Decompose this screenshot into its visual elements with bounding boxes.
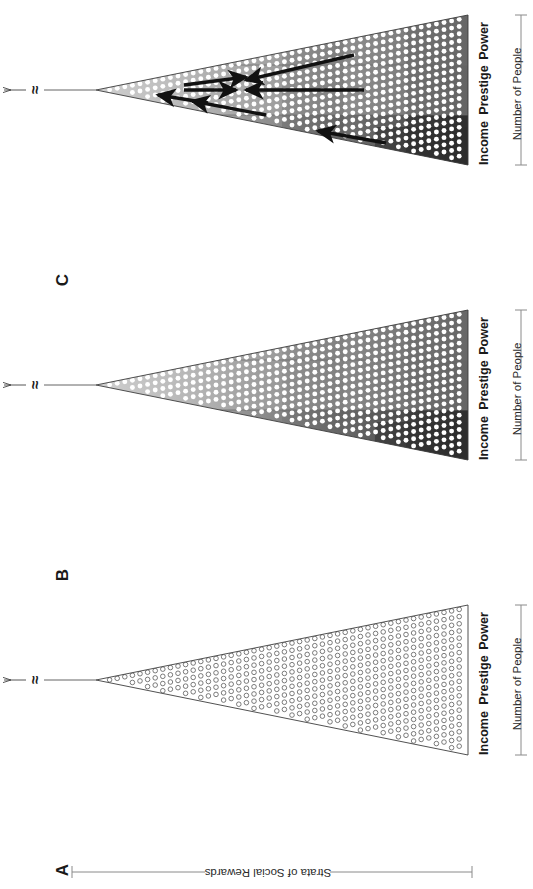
person-dot — [259, 381, 264, 386]
person-dot — [350, 60, 355, 65]
person-dot — [236, 97, 241, 102]
person-dot — [259, 57, 264, 62]
person-dot — [312, 363, 317, 368]
person-dot — [404, 330, 409, 335]
person-dot — [411, 436, 416, 441]
person-dot — [176, 88, 181, 93]
person-dot — [282, 412, 287, 417]
person-dot — [259, 78, 264, 83]
person-dot — [191, 366, 196, 371]
person-dot — [419, 435, 424, 440]
person-dot — [388, 31, 393, 36]
person-dot — [320, 340, 325, 345]
person-dot — [373, 430, 378, 435]
person-dot — [267, 77, 272, 82]
person-dot — [153, 85, 158, 90]
person-dot — [457, 326, 462, 331]
person-dot — [350, 369, 355, 374]
person-dot — [404, 100, 409, 105]
person-dot — [442, 92, 447, 97]
person-dot — [388, 103, 393, 108]
person-dot — [221, 359, 226, 364]
person-dot — [434, 101, 439, 106]
person-dot — [381, 392, 386, 397]
person-dot — [267, 113, 272, 118]
person-dot — [160, 386, 165, 391]
person-dot — [335, 106, 340, 111]
person-dot — [449, 76, 454, 81]
person-dot — [419, 341, 424, 346]
person-dot — [229, 70, 234, 75]
person-dot — [381, 421, 386, 426]
person-dot — [388, 60, 393, 65]
person-dot — [366, 359, 371, 364]
person-dot — [312, 384, 317, 389]
person-dot — [388, 347, 393, 352]
person-dot — [457, 60, 462, 65]
person-dot — [343, 364, 348, 369]
person-dot — [343, 421, 348, 426]
person-dot — [434, 108, 439, 113]
person-dot — [388, 96, 393, 101]
person-dot — [426, 145, 431, 150]
person-dot — [328, 417, 333, 422]
person-dot — [381, 61, 386, 66]
person-dot — [252, 404, 257, 409]
person-dot — [457, 17, 462, 22]
person-dot — [373, 350, 378, 355]
person-dot — [252, 66, 257, 71]
person-dot — [434, 360, 439, 365]
person-dot — [236, 83, 241, 88]
person-dot — [419, 53, 424, 58]
person-dot — [366, 115, 371, 120]
person-dot — [411, 149, 416, 154]
person-dot — [381, 54, 386, 59]
person-dot — [366, 79, 371, 84]
person-dot — [274, 111, 279, 116]
person-dot — [457, 96, 462, 101]
person-dot — [358, 73, 363, 78]
person-dot — [343, 105, 348, 110]
person-dot — [373, 358, 378, 363]
person-dot — [244, 60, 249, 65]
person-dot — [244, 362, 249, 367]
person-dot — [373, 394, 378, 399]
person-dot — [457, 420, 462, 425]
person-dot — [434, 439, 439, 444]
person-dot — [434, 50, 439, 55]
person-dot — [442, 128, 447, 133]
person-dot — [373, 55, 378, 60]
person-dot — [426, 102, 431, 107]
person-dot — [153, 380, 158, 385]
person-dot — [396, 36, 401, 41]
person-dot — [434, 151, 439, 156]
person-dot — [449, 407, 454, 412]
person-dot — [396, 94, 401, 99]
person-dot — [366, 57, 371, 62]
person-dot — [305, 364, 310, 369]
person-dot — [396, 87, 401, 92]
person-dot — [252, 116, 257, 121]
person-dot — [350, 38, 355, 43]
person-dot — [282, 383, 287, 388]
person-dot — [404, 85, 409, 90]
person-dot — [449, 134, 454, 139]
person-dot — [426, 404, 431, 409]
person-dot — [457, 319, 462, 324]
person-dot — [282, 59, 287, 64]
person-dot — [404, 49, 409, 54]
person-dot — [396, 130, 401, 135]
person-dot — [426, 30, 431, 35]
person-dot — [282, 117, 287, 122]
person-dot — [449, 155, 454, 160]
person-dot — [373, 379, 378, 384]
person-dot — [267, 372, 272, 377]
person-dot — [381, 342, 386, 347]
person-dot — [145, 382, 150, 387]
person-dot — [373, 41, 378, 46]
person-dot — [396, 403, 401, 408]
person-dot — [449, 141, 454, 146]
person-dot — [206, 398, 211, 403]
person-dot — [244, 96, 249, 101]
person-dot — [312, 75, 317, 80]
